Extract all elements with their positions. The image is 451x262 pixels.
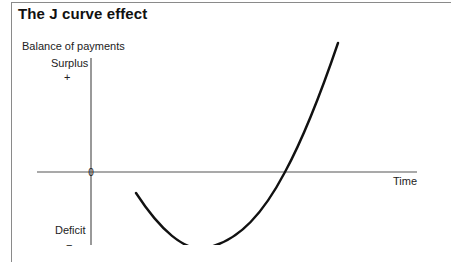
origin-label: 0 xyxy=(88,167,94,178)
j-curve-line xyxy=(136,43,338,245)
